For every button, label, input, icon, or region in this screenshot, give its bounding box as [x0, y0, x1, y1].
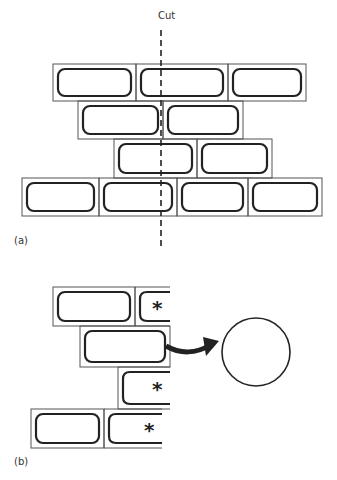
- brick-core: [123, 372, 170, 404]
- brick-cell: [80, 326, 170, 367]
- arrow-head-icon: [203, 337, 219, 356]
- brick-core: [27, 183, 94, 211]
- circle-shape: [222, 318, 290, 386]
- asterisk-marker: *: [152, 377, 163, 401]
- brick-core: [36, 414, 99, 443]
- asterisk-marker: *: [152, 296, 163, 320]
- arrow-icon: [166, 345, 210, 352]
- brick-core: [83, 106, 158, 134]
- brick-core: [58, 69, 131, 96]
- brick-core: [119, 144, 192, 173]
- brick-wall-cut-diagram: ***: [0, 0, 337, 480]
- brick-core: [253, 183, 317, 211]
- brick-core: [58, 292, 130, 321]
- brick-core: [85, 331, 165, 362]
- brick-core: [182, 183, 243, 211]
- cut-label: Cut: [158, 10, 175, 21]
- brick-core: [168, 106, 238, 134]
- brick-core: [233, 69, 301, 96]
- part-b-label: (b): [14, 456, 28, 467]
- part-a-label: (a): [14, 235, 28, 246]
- brick-core: [141, 69, 223, 96]
- brick-core: [104, 183, 172, 211]
- brick-core: [202, 144, 267, 173]
- asterisk-marker: *: [144, 418, 155, 442]
